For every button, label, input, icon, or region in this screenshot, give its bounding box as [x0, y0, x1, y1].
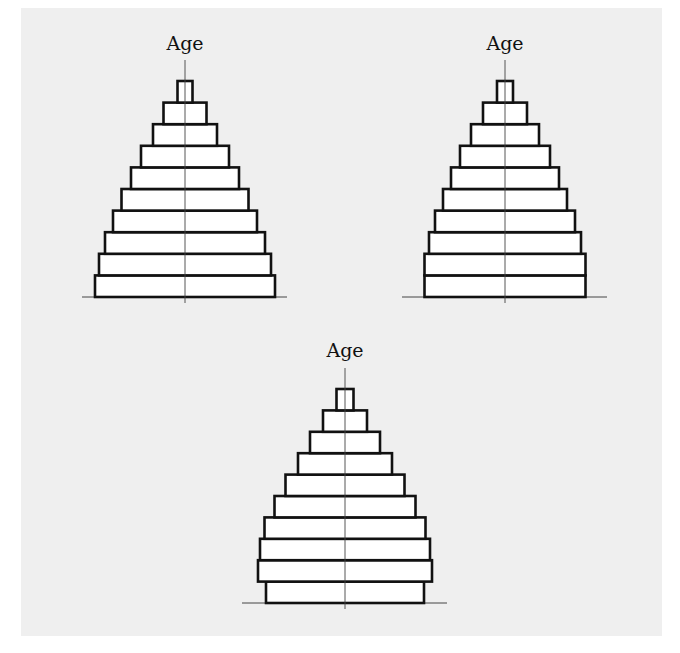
population-pyramids-chart [0, 0, 680, 653]
pyramid-top-right [402, 60, 607, 303]
pyramid-bottom-center [242, 368, 447, 609]
pyramid-top-left [82, 60, 287, 303]
age-axis-label-3: Age [315, 340, 375, 360]
age-axis-label-1: Age [155, 33, 215, 53]
age-axis-label-2: Age [475, 33, 535, 53]
